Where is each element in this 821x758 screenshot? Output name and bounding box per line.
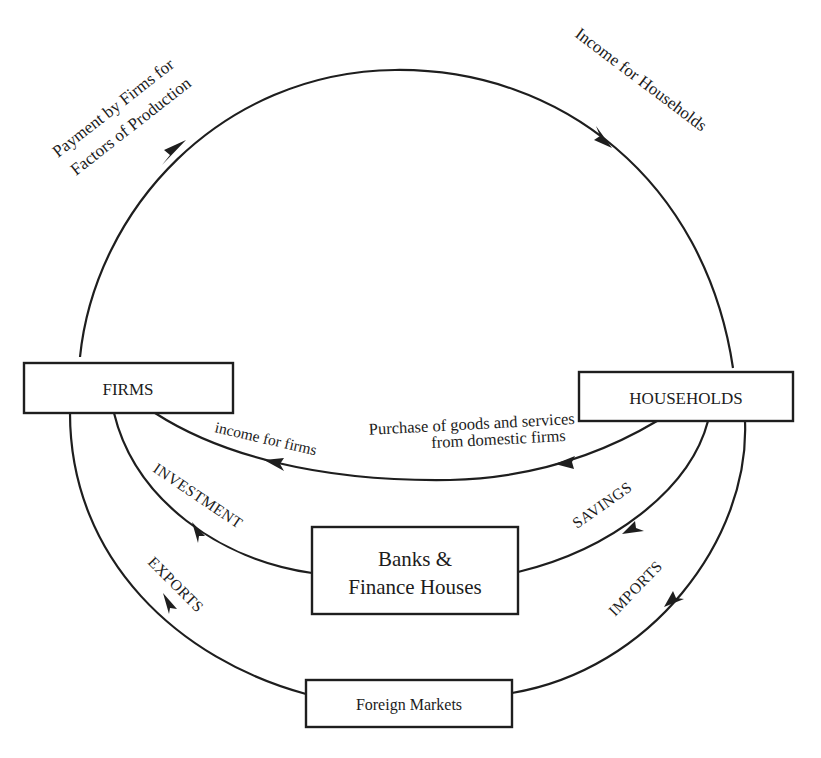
exports-flow-arc <box>70 413 306 694</box>
banks-label-line1: Banks & <box>378 547 452 571</box>
imports-label: IMPORTS <box>605 557 666 619</box>
income-households-arrowhead-icon <box>594 126 612 148</box>
circular-flow-diagram: FIRMS HOUSEHOLDS Banks & Finance Houses … <box>0 0 821 758</box>
savings-arrowhead-icon <box>622 521 644 534</box>
foreign-markets-node: Foreign Markets <box>306 680 512 727</box>
banks-label-line2: Finance Houses <box>348 575 482 599</box>
households-node: HOUSEHOLDS <box>579 372 793 421</box>
income-firms-label: income for firms <box>213 418 318 458</box>
foreign-markets-label: Foreign Markets <box>356 696 462 714</box>
payment-flow-arc <box>80 70 733 368</box>
households-label: HOUSEHOLDS <box>629 389 742 408</box>
income-households-label: Income for Households <box>572 24 711 135</box>
exports-label: EXPORTS <box>145 553 208 616</box>
banks-node: Banks & Finance Houses <box>312 527 518 614</box>
investment-label: INVESTMENT <box>150 459 246 531</box>
firms-node: FIRMS <box>24 363 233 413</box>
firms-label: FIRMS <box>102 380 153 399</box>
imports-flow-arc <box>512 421 745 693</box>
purchase-arrowhead-icon <box>555 456 575 469</box>
savings-label: SAVINGS <box>569 478 635 531</box>
exports-arrowhead-icon <box>163 593 177 614</box>
